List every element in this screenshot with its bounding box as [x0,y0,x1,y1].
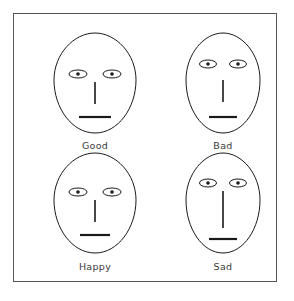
face-cell-bad: Bad [164,28,282,159]
figure-frame: Good Bad Happy [13,13,277,282]
face-label-happy: Happy [36,261,154,272]
left-pupil-icon [206,62,210,66]
right-pupil-icon [236,181,240,185]
right-pupil-icon [110,72,114,76]
face-drawing-bad [164,28,282,140]
left-pupil-icon [76,190,80,194]
face-cell-sad: Sad [164,148,282,279]
right-pupil-icon [110,190,114,194]
left-pupil-icon [206,181,210,185]
right-pupil-icon [236,62,240,66]
left-pupil-icon [76,72,80,76]
face-drawing-sad [164,148,282,260]
face-drawing-happy [36,148,154,260]
face-drawing-good [36,28,154,140]
face-cell-good: Good [36,28,154,159]
face-cell-happy: Happy [36,148,154,279]
face-label-sad: Sad [164,261,282,272]
